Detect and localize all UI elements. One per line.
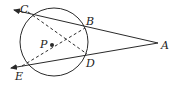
secant-diagram: C B D E A P xyxy=(0,0,177,88)
circle-p xyxy=(20,8,88,76)
label-a: A xyxy=(160,39,169,52)
secant-a-e xyxy=(11,43,158,68)
label-p: P xyxy=(39,38,48,51)
label-b: B xyxy=(85,15,94,28)
center-point-p xyxy=(50,43,54,47)
label-e: E xyxy=(14,70,23,83)
label-c: C xyxy=(20,3,29,16)
label-d: D xyxy=(85,57,95,70)
